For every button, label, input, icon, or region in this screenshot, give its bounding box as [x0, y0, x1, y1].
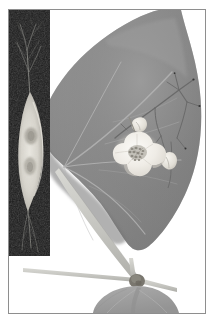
micrograph-inset: [9, 10, 50, 256]
stem-node: [129, 274, 145, 288]
figure-plate-content: Large heart-shaped leaf with a small whi…: [9, 10, 205, 313]
micrograph-image: [9, 10, 50, 256]
figure-plate: Large heart-shaped leaf with a small whi…: [0, 0, 216, 325]
